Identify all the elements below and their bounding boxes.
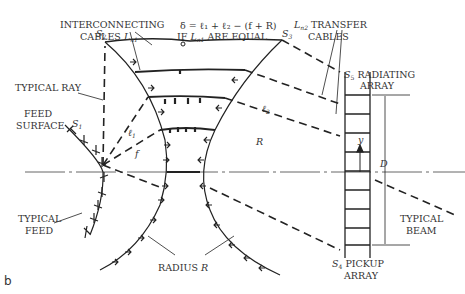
- lens-surface-right: [204, 40, 282, 275]
- label-surface: SURFACE: [16, 120, 65, 131]
- label-radiating-array: ARRAY: [360, 80, 394, 91]
- label-R: R: [256, 136, 263, 147]
- label-typical-feed-1: TYPICAL: [18, 213, 61, 224]
- label-typical-beam-1: TYPICAL: [400, 213, 443, 224]
- label-typical-feed-2: FEED: [25, 225, 53, 236]
- label-formula: δ = ℓ₁ + ℓ₂ − (f + R): [180, 20, 277, 31]
- label-s3: S3: [282, 28, 292, 42]
- lens-surface-left: [100, 42, 167, 270]
- label-cables-ln1: CABLES Ln1: [80, 31, 138, 45]
- interconnect-cable-2: [135, 69, 245, 72]
- label-f: f: [135, 148, 139, 159]
- label-s2: S2: [96, 28, 106, 42]
- label-D: D: [380, 158, 388, 169]
- feed-elements: [67, 126, 108, 238]
- label-transfer-cables: CABLES: [308, 31, 349, 42]
- label-l2: ℓ2: [262, 103, 270, 117]
- label-typical-ray: TYPICAL RAY: [15, 82, 81, 93]
- label-radius: RADIUS R: [158, 262, 208, 273]
- label-s1: S1: [72, 118, 82, 132]
- interconnect-cable-4: [160, 128, 215, 130]
- label-feed: FEED: [24, 108, 52, 119]
- lens-elements: [112, 59, 265, 271]
- label-pickup-array: ARRAY: [344, 270, 378, 281]
- label-y: y: [358, 134, 363, 145]
- transfer-cables: [345, 95, 370, 245]
- label-typical-beam-2: BEAM: [406, 225, 437, 236]
- panel-label: b: [4, 276, 12, 287]
- diagram-canvas: INTERCONNECTING CABLES Ln1 δ = ℓ₁ + ℓ₂ −…: [0, 0, 465, 294]
- label-interconnecting: INTERCONNECTING: [60, 19, 164, 30]
- label-l1: ℓ1: [128, 127, 136, 141]
- interconnect-cable-3: [148, 96, 225, 98]
- label-if-equal: IF Ln1 ARE EQUAL: [177, 31, 267, 45]
